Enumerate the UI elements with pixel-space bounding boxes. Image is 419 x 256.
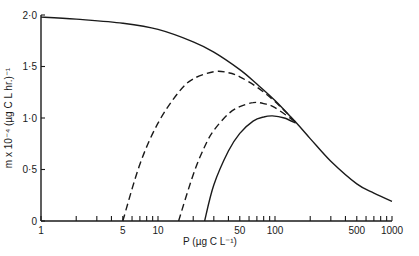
- x-tick-label: 500: [348, 225, 365, 236]
- y-tick-label: 0·5: [23, 164, 38, 175]
- y-axis-label: m x 10⁻⁴ (µg C L hr.)⁻¹: [3, 67, 14, 168]
- curve-line: [205, 116, 296, 221]
- x-tick-label: 1: [38, 225, 44, 236]
- x-tick-label: 5: [120, 225, 126, 236]
- curve-line: [41, 17, 392, 201]
- y-tick-label: 2·0: [23, 10, 38, 21]
- y-tick-label: 0: [31, 216, 37, 227]
- x-tick-label: 1000: [381, 225, 404, 236]
- y-tick-label: 1·5: [23, 61, 38, 72]
- x-tick-label: 100: [267, 225, 284, 236]
- curve-line: [179, 102, 296, 221]
- x-axis-ticks: 1510501005001000: [38, 216, 403, 236]
- y-tick-label: 1·0: [23, 113, 38, 124]
- x-tick-label: 10: [152, 225, 164, 236]
- plot-curves: [41, 17, 392, 221]
- x-tick-label: 50: [234, 225, 246, 236]
- x-axis-label: P (µg C L⁻¹): [183, 236, 237, 247]
- chart: 00·51·01·52·0 1510501005001000 P (µg C L…: [0, 0, 419, 256]
